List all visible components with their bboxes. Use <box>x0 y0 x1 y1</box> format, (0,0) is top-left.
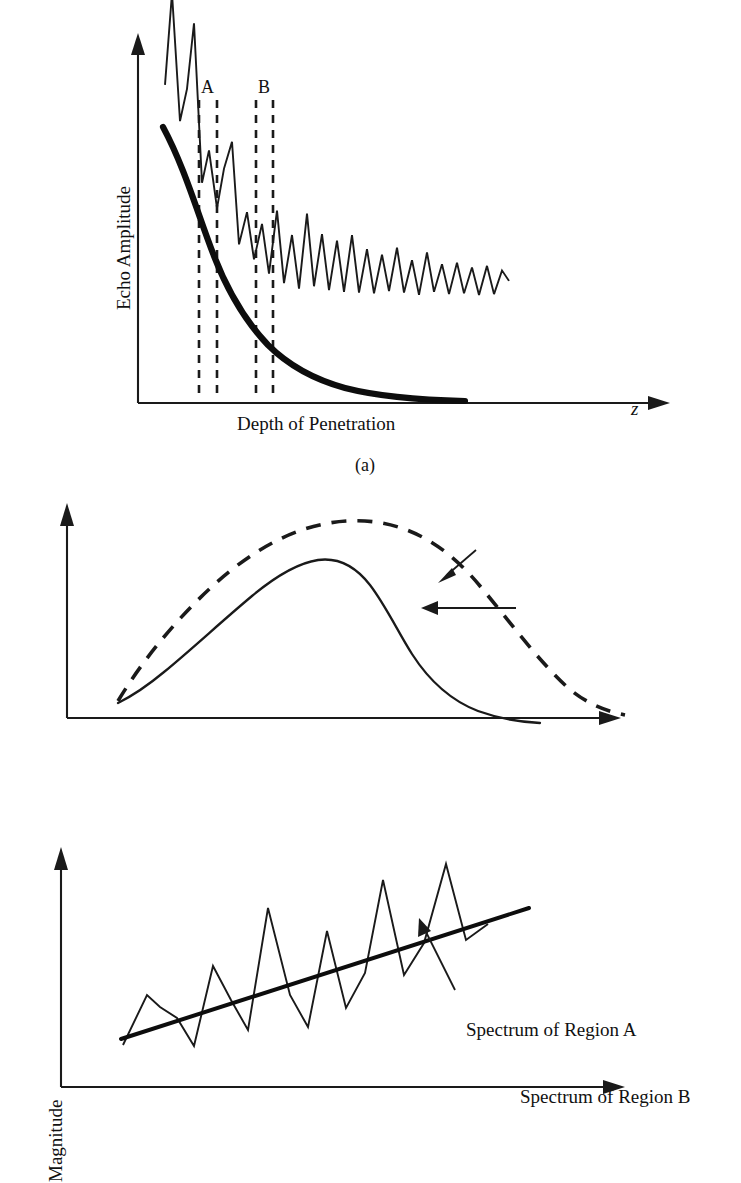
panel-a-y-axis-label: Echo Amplitude <box>114 186 133 310</box>
figure-ultrasound-spectral-difference: Echo Amplitude Depth of Penetration z A … <box>0 0 741 1183</box>
panel-a-axis-variable-label: z <box>631 399 638 418</box>
panel-b-y-axis-arrow-icon <box>60 503 74 526</box>
region-b-label: B <box>258 78 270 96</box>
panel-c-x-axis-arrow-icon <box>603 1080 625 1094</box>
region-a-label: A <box>201 78 214 96</box>
panel-b-plot <box>0 490 741 820</box>
panel-c-log-magnitude-difference: Log Magnitude Frequency Difference of sp… <box>0 820 741 1183</box>
panel-a-x-axis-label: Depth of Penetration <box>237 414 395 433</box>
spectrum-region-a-curve <box>118 521 625 715</box>
panel-b-magnitude-spectra: Magnitude Frequency Spectrum of Region A… <box>0 490 741 820</box>
panel-a-echo-amplitude: Echo Amplitude Depth of Penetration z A … <box>0 0 741 490</box>
annotation-c-leader-line <box>425 930 455 990</box>
panel-c-plot <box>0 820 741 1183</box>
panel-a-y-axis-arrow-icon <box>131 33 145 55</box>
panel-c-y-axis-arrow-icon <box>54 847 68 870</box>
annotation-b-arrow-icon <box>421 601 438 615</box>
panel-a-caption: (a) <box>355 456 375 474</box>
attenuation-trend-line <box>121 908 529 1039</box>
panel-b-x-axis-arrow-icon <box>599 711 621 725</box>
panel-a-envelope-curve <box>163 127 465 401</box>
panel-a-x-axis-arrow-icon <box>648 396 670 410</box>
